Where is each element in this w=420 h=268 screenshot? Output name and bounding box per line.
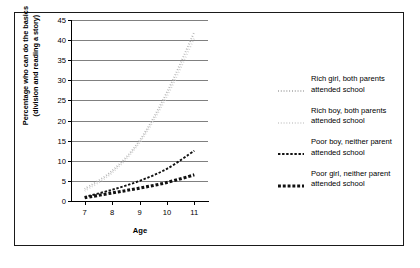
legend-label-line1: Poor boy, neither parent	[311, 137, 397, 148]
y-tick-label: 25	[58, 96, 66, 105]
x-tick-mark	[85, 202, 86, 205]
legend-swatch-icon	[278, 111, 304, 114]
legend-label-line1: Rich boy, both parents	[311, 106, 397, 117]
legend-label-line1: Rich girl, both parents	[311, 74, 397, 85]
x-tick-mark	[112, 202, 113, 205]
x-tick-label: 9	[137, 208, 141, 217]
y-axis-title: Percentage who can do the basics (divisi…	[21, 0, 40, 161]
legend-entry[interactable]: Poor girl, neither parentattended school	[278, 171, 396, 192]
series-line	[85, 38, 195, 191]
x-axis-title: Age	[71, 226, 209, 235]
series-layer	[71, 20, 208, 202]
legend-swatch-icon	[278, 79, 304, 82]
legend-entry[interactable]: Rich boy, both parentsattended school	[278, 108, 396, 129]
y-tick-label: 35	[58, 56, 66, 65]
x-tick-label: 11	[190, 208, 198, 217]
legend-entry[interactable]: Poor boy, neither parentattended school	[278, 139, 396, 160]
x-tick-label: 8	[110, 208, 114, 217]
legend-label: Poor girl, neither parentattended school	[311, 169, 397, 190]
y-tick-label: 40	[58, 36, 66, 45]
x-tick-label: 7	[83, 208, 87, 217]
y-tick-label: 45	[58, 16, 66, 25]
y-tick-label: 30	[58, 76, 66, 85]
x-tick-label: 10	[163, 208, 171, 217]
legend-label-line2: attended school	[311, 179, 397, 190]
x-tick-mark	[194, 202, 195, 205]
y-axis-title-line2: (division and reading a story)	[31, 0, 41, 161]
legend-label: Poor boy, neither parentattended school	[311, 137, 397, 158]
legend-label-line2: attended school	[311, 116, 397, 127]
legend-entry[interactable]: Rich girl, both parentsattended school	[278, 76, 396, 97]
series-line	[85, 32, 195, 189]
legend-label-line2: attended school	[311, 148, 397, 159]
legend-label-line2: attended school	[311, 85, 397, 96]
legend-swatch-icon	[278, 174, 304, 177]
x-tick-mark	[167, 202, 168, 205]
series-line	[85, 151, 195, 197]
legend-swatch-icon	[278, 142, 304, 145]
legend-label: Rich boy, both parentsattended school	[311, 106, 397, 127]
legend-label-line1: Poor girl, neither parent	[311, 169, 397, 180]
chart-figure: Percentage who can do the basics (divisi…	[0, 0, 420, 268]
y-tick-label: 15	[58, 136, 66, 145]
x-tick-mark	[140, 202, 141, 205]
y-tick-label: 10	[58, 156, 66, 165]
chart-legend: Rich girl, both parentsattended schoolRi…	[278, 76, 396, 202]
y-tick-label: 0	[62, 197, 66, 206]
y-tick-label: 20	[58, 116, 66, 125]
y-axis-title-line1: Percentage who can do the basics	[21, 6, 30, 125]
legend-label: Rich girl, both parentsattended school	[311, 74, 397, 95]
y-tick-label: 5	[62, 176, 66, 185]
